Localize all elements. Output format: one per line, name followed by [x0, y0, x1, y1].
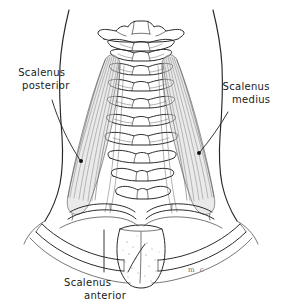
thoracic-vertebra-t1 [105, 132, 178, 145]
artist-signature: m c [188, 266, 205, 274]
label-scalenus-medius-line1: Scalenus [223, 81, 270, 92]
anatomical-figure: Scalenus posterior Scalenus medius Scale… [0, 0, 282, 303]
atlas-vertebra [98, 21, 184, 42]
label-scalenus-anterior-line1: Scalenus [64, 277, 111, 288]
vertebral-body-lower-3 [116, 186, 171, 199]
anatomy-drawing [0, 0, 282, 303]
label-scalenus-posterior: Scalenus posterior [14, 66, 70, 92]
label-scalenus-anterior-line2: anterior [64, 289, 126, 302]
cervical-vertebra-c7 [106, 114, 175, 126]
clavicle-right [152, 224, 252, 283]
cervical-vertebra-c3 [110, 49, 171, 61]
label-scalenus-posterior-line2: posterior [14, 79, 70, 92]
label-scalenus-medius: Scalenus medius [222, 80, 270, 106]
scalenus-posterior-muscle [67, 55, 120, 215]
label-scalenus-anterior: Scalenus anterior [64, 276, 126, 302]
clavicle-left [30, 224, 130, 283]
label-scalenus-medius-line2: medius [222, 93, 270, 106]
vertebral-body-lower-2 [111, 168, 173, 181]
label-scalenus-posterior-line1: Scalenus [18, 67, 65, 78]
neck-contour-right [213, 10, 237, 221]
